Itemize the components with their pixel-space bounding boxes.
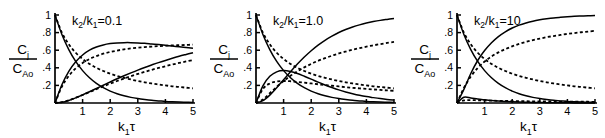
- x-tick-label: 2: [107, 105, 113, 117]
- x-axis-label: k1τ: [118, 119, 136, 137]
- x-tick-label: 4: [564, 105, 570, 117]
- x-tick-label: 4: [162, 105, 168, 117]
- x-tick-label: 3: [135, 105, 141, 117]
- panel-title: k2/k1=1.0: [273, 14, 323, 30]
- svg-text:k1τ: k1τ: [118, 119, 136, 137]
- y-axis-label: CjCAo: [411, 42, 439, 79]
- x-tick-label: 2: [509, 105, 515, 117]
- curve-A-solid-decay: [457, 15, 595, 102]
- y-tick-label: .2: [243, 79, 252, 91]
- x-tick-label: 5: [592, 105, 598, 117]
- y-tick-label: .2: [444, 79, 453, 91]
- y-tick-label: .4: [444, 61, 453, 73]
- y-tick-label: .6: [243, 44, 252, 56]
- panel-title: k2/k1=10: [474, 14, 521, 30]
- x-axis-label: k1τ: [520, 119, 538, 137]
- curve-S-dashed-rise: [55, 60, 193, 103]
- curve-S-solid-rise: [457, 16, 595, 103]
- y-tick-label: .4: [42, 61, 51, 73]
- svg-text:k2/k1=0.1: k2/k1=0.1: [72, 14, 122, 30]
- x-tick-label: 5: [391, 105, 397, 117]
- y-tick-label: 1: [246, 9, 252, 21]
- x-axis-label: k1τ: [319, 119, 337, 137]
- x-tick-label: 5: [190, 105, 196, 117]
- y-tick-label: .6: [42, 44, 51, 56]
- y-tick-label: .8: [42, 26, 51, 38]
- figure-container: .2.4.6.8112345k2/k1=0.1k1τCjCAo.2.4.6.81…: [0, 0, 605, 138]
- y-tick-label: 1: [45, 9, 51, 21]
- y-tick-label: .2: [42, 79, 51, 91]
- curves: [55, 15, 193, 103]
- x-tick-label: 2: [308, 105, 314, 117]
- x-tick-label: 3: [537, 105, 543, 117]
- chart-panel-1: .2.4.6.8112345k2/k1=0.1k1τCjCAo: [0, 0, 202, 138]
- x-tick-label: 1: [80, 105, 86, 117]
- svg-text:k2/k1=1.0: k2/k1=1.0: [273, 14, 323, 30]
- y-axis-label-numerator: Cj: [218, 42, 230, 60]
- y-axis-label-denominator: CAo: [13, 61, 34, 79]
- y-axis-label-numerator: Cj: [419, 42, 431, 60]
- chart-panel-2: .2.4.6.8112345k2/k1=1.0k1τCjCAo: [201, 0, 403, 138]
- x-tick-label: 3: [336, 105, 342, 117]
- x-tick-label: 1: [482, 105, 488, 117]
- svg-text:k2/k1=10: k2/k1=10: [474, 14, 521, 30]
- y-tick-label: .8: [444, 26, 453, 38]
- y-tick-label: 1: [447, 9, 453, 21]
- y-axis-label-denominator: CAo: [214, 61, 235, 79]
- chart-panel-3: .2.4.6.8112345k2/k1=10k1τCjCAo: [402, 0, 604, 138]
- y-tick-label: .6: [444, 44, 453, 56]
- curve-S-dashed-rise: [457, 31, 595, 103]
- curve-R-solid-max: [55, 43, 193, 103]
- svg-text:k1τ: k1τ: [319, 119, 337, 137]
- y-axis-label-denominator: CAo: [415, 61, 436, 79]
- curves: [256, 15, 394, 103]
- y-axis-label: CjCAo: [210, 42, 238, 79]
- svg-text:k1τ: k1τ: [520, 119, 538, 137]
- x-tick-label: 4: [363, 105, 369, 117]
- panel-title: k2/k1=0.1: [72, 14, 122, 30]
- x-tick-label: 1: [281, 105, 287, 117]
- curves: [457, 15, 595, 103]
- y-axis-label-numerator: Cj: [17, 42, 29, 60]
- y-tick-label: .8: [243, 26, 252, 38]
- y-tick-label: .4: [243, 61, 252, 73]
- y-axis-label: CjCAo: [9, 42, 37, 79]
